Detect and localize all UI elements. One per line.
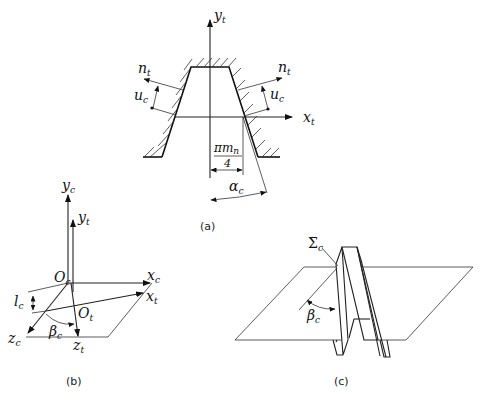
profile-extension — [243, 117, 267, 193]
hatching-top — [196, 58, 236, 67]
helix-reference-line — [299, 268, 337, 310]
label-lc: lc — [14, 293, 24, 311]
pitch-plane-right — [363, 267, 473, 340]
label-sigma-c: Σc — [308, 235, 323, 253]
label-yt-b: yt — [77, 209, 90, 227]
label-yc: yc — [61, 177, 75, 195]
label-nt-right: nt — [278, 59, 291, 77]
label-xt-b: xt — [146, 288, 158, 306]
label-xc: xc — [147, 267, 160, 285]
pitch-plane-left — [235, 267, 348, 340]
zt-axis — [71, 283, 78, 336]
panel-b-coordinate-systems: yc yt Oc Ot xc xt zc zt lc βc (b) — [7, 177, 160, 388]
label-zt: zt — [72, 337, 84, 355]
sigma-leader — [322, 248, 338, 266]
caption-c: (c) — [334, 375, 349, 388]
label-alpha-c: αc — [229, 178, 244, 196]
label-xt: xt — [303, 109, 315, 127]
rack-cutter-coordinate-diagram: yt xt nt nt uc uc πmn 4 αc (a) yc yt — [0, 0, 485, 398]
caption-b: (b) — [66, 375, 82, 388]
label-yt: yt — [213, 7, 226, 25]
label-zc: zc — [7, 330, 20, 348]
normal-left-arrow — [144, 79, 183, 90]
label-beta-c-c: βc — [306, 307, 320, 325]
label-half-width-numerator: πmn — [213, 141, 239, 156]
caption-a: (a) — [200, 220, 215, 233]
normal-left-base — [152, 108, 176, 115]
label-uc-left: uc — [134, 87, 148, 105]
xt-axis-b — [46, 293, 143, 311]
label-beta-c-b: βc — [48, 323, 62, 341]
offset-left-dim — [153, 86, 158, 108]
offset-right-dim — [262, 86, 268, 109]
panel-c-rack-cutter-3d: Σc βc (c) — [235, 235, 473, 388]
label-uc-right: uc — [270, 86, 284, 104]
label-nt-left: nt — [138, 60, 151, 78]
label-ot: Ot — [78, 305, 93, 323]
label-half-width-denominator: 4 — [223, 157, 231, 170]
panel-a-rack-tooth-profile: yt xt nt nt uc uc πmn 4 αc (a) — [134, 7, 315, 233]
normal-right-base — [244, 109, 268, 116]
